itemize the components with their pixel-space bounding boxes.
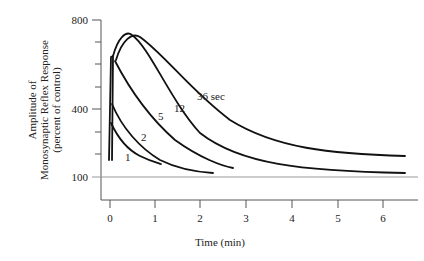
y-tick-label: 400: [72, 103, 89, 115]
y-tick-label: 100: [72, 171, 89, 183]
series-1-sec: [111, 123, 161, 164]
x-ticks: [110, 200, 383, 208]
x-tick-label: 0: [107, 212, 113, 224]
series-label: 1: [125, 151, 131, 163]
chart: 800 400 100 0 1 2 3 4 5 6 Time (min) Amp…: [0, 0, 424, 261]
x-tick-label: 5: [335, 212, 341, 224]
series-label: 2: [141, 131, 147, 143]
series-12-sec: [113, 34, 405, 173]
svg-text:(percent of control): (percent of control): [50, 67, 63, 153]
x-tick-label: 4: [289, 212, 295, 224]
x-tick-label: 6: [380, 212, 386, 224]
svg-text:Amplitude of: Amplitude of: [26, 80, 38, 139]
series-label: 36 sec: [197, 90, 225, 102]
x-axis-label: Time (min): [195, 236, 245, 249]
y-ticks: [92, 20, 101, 154]
series-36-sec: [116, 36, 405, 156]
series-label: 12: [174, 102, 185, 114]
x-tick-label: 2: [197, 212, 203, 224]
series-label: 5: [158, 110, 164, 122]
y-axis-label: Amplitude of Monosynaptic Reflex Respons…: [26, 40, 63, 180]
x-tick-label: 3: [243, 212, 249, 224]
rising-phase: [109, 56, 113, 160]
x-tick-label: 1: [152, 212, 158, 224]
svg-text:Monosynaptic Reflex Response: Monosynaptic Reflex Response: [38, 40, 50, 180]
y-tick-label: 800: [72, 14, 89, 26]
